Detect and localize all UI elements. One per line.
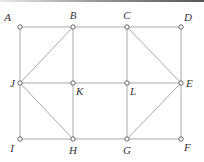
edge-j-h	[20, 83, 73, 139]
node-a	[18, 25, 22, 29]
edge-c-e	[127, 27, 181, 83]
edges-layer	[20, 27, 181, 139]
node-label-g: G	[123, 144, 131, 156]
node-d	[179, 25, 183, 29]
node-h	[71, 137, 75, 141]
node-label-a: A	[3, 11, 11, 23]
node-g	[125, 137, 129, 141]
node-i	[18, 137, 22, 141]
node-label-i: I	[9, 142, 15, 154]
node-e	[179, 81, 183, 85]
node-c	[125, 25, 129, 29]
node-label-c: C	[123, 9, 131, 21]
node-label-f: F	[183, 141, 191, 153]
node-label-b: B	[70, 9, 77, 21]
node-label-h: H	[68, 144, 78, 156]
node-j	[18, 81, 22, 85]
node-b	[71, 25, 75, 29]
edge-b-j	[20, 27, 73, 83]
node-label-d: D	[183, 11, 192, 23]
graph-diagram: ABCDJKLEIHGF	[0, 0, 204, 162]
node-label-l: L	[129, 85, 136, 97]
node-k	[71, 81, 75, 85]
node-label-e: E	[185, 77, 193, 89]
node-label-j: J	[10, 77, 16, 89]
node-l	[125, 81, 129, 85]
node-label-k: K	[75, 85, 84, 97]
node-f	[179, 137, 183, 141]
